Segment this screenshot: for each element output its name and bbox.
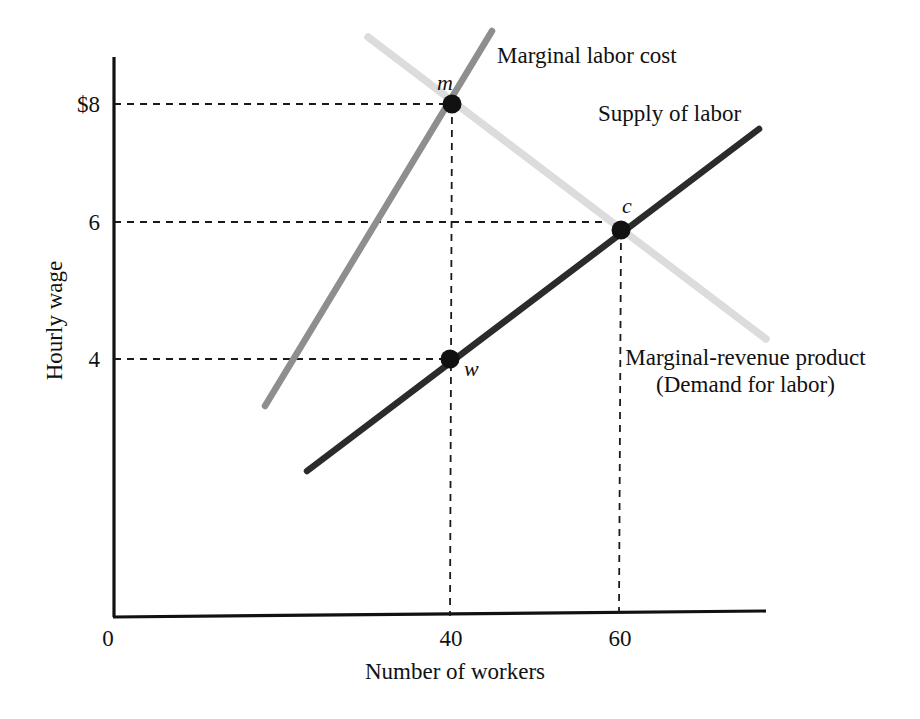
guide-vertical-60 <box>619 230 621 613</box>
data-point-w <box>441 350 460 369</box>
supply-of-labor-label: Supply of labor <box>598 100 741 127</box>
marginal-revenue-product-curve <box>368 37 766 339</box>
y-tick-label-8: $8 <box>58 91 100 118</box>
supply-of-labor-curve <box>307 129 759 471</box>
x-tick-label-0: 0 <box>88 625 128 652</box>
data-point-m <box>443 95 462 114</box>
y-axis-title: Hourly wage <box>41 241 68 401</box>
point-label-w: w <box>464 356 479 382</box>
monopsony-labor-market-chart: $8 6 4 0 40 60 Hourly wage Number of wor… <box>0 0 920 719</box>
marginal-labor-cost-curve <box>265 31 492 406</box>
data-point-c <box>612 221 631 240</box>
x-axis-line <box>113 611 766 617</box>
demand-label-line2: (Demand for labor) <box>598 371 893 398</box>
axis-lines <box>113 57 766 617</box>
demand-label-line1: Marginal-revenue product <box>598 344 893 371</box>
x-axis-title: Number of workers <box>335 658 575 685</box>
x-tick-label-60: 60 <box>597 625 643 652</box>
point-label-m: m <box>437 70 453 96</box>
point-label-c: c <box>622 193 632 219</box>
y-tick-label-6: 6 <box>58 209 100 236</box>
x-tick-label-40: 40 <box>428 625 474 652</box>
guide-lines <box>114 104 621 616</box>
marginal-labor-cost-label: Marginal labor cost <box>497 42 677 69</box>
